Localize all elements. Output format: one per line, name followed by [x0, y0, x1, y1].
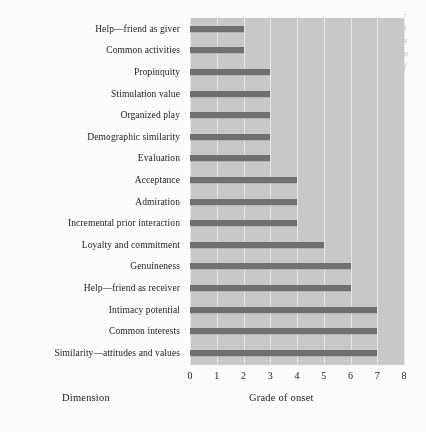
- x-axis-title: Grade of onset: [249, 392, 314, 403]
- x-axis-tick-label: 5: [321, 370, 326, 381]
- x-axis-tick-label: 1: [214, 370, 219, 381]
- x-axis-tick-label: 4: [295, 370, 300, 381]
- bleed-text-line: s: [404, 34, 426, 47]
- x-axis-tick-label: 6: [348, 370, 353, 381]
- x-axis: Grade of onset Dimension 012345678: [0, 0, 426, 432]
- bleed-text-line: i: [404, 8, 426, 21]
- x-axis-tick-label: 3: [268, 370, 273, 381]
- page-margin-bleed-text: iisuf: [404, 8, 426, 78]
- x-axis-tick-label: 2: [241, 370, 246, 381]
- bleed-text-line: i: [404, 21, 426, 34]
- x-axis-tick-label: 7: [375, 370, 380, 381]
- y-axis-title: Dimension: [62, 392, 110, 403]
- bar-chart-figure: Help—friend as giverCommon activitiesPro…: [0, 0, 426, 432]
- x-axis-tick-label: 8: [402, 370, 407, 381]
- bleed-text-line: u: [404, 47, 426, 60]
- x-axis-tick-label: 0: [188, 370, 193, 381]
- bleed-text-line: f: [404, 60, 426, 73]
